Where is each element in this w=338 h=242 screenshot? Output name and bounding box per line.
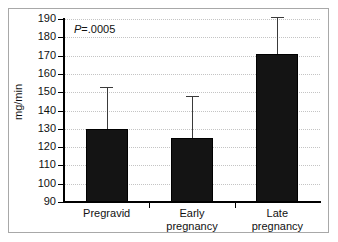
bar-early-pregnancy [171,138,213,202]
y-tick-label-90: 90 [16,196,56,207]
error-bar-cap-1 [100,87,113,88]
gridline-190 [64,19,320,20]
y-tick-160 [58,74,64,75]
p-value-text: =.0005 [81,23,115,35]
p-value-annotation: P=.0005 [74,23,115,35]
bar-late-pregnancy [256,54,298,202]
y-tick-120 [58,147,64,148]
y-tick-180 [58,37,64,38]
x-axis-label-3-line-1: Late [227,207,327,220]
y-tick-110 [58,165,64,166]
error-bar-stem-2 [192,96,193,138]
y-tick-140 [58,111,64,112]
y-axis-title: mg/min [12,72,24,132]
error-bar-stem-3 [277,17,278,54]
figure-container: 19018017016015014013012011010090 Pregrav… [0,0,338,242]
y-tick-130 [58,129,64,130]
y-tick-190 [58,19,64,20]
bar-pregravid [86,129,128,202]
y-tick-label-170: 170 [16,50,56,61]
y-tick-100 [58,184,64,185]
y-tick-label-180: 180 [16,31,56,42]
y-tick-label-100: 100 [16,178,56,189]
y-tick-90 [58,202,64,203]
x-axis-line [63,201,321,203]
y-tick-label-110: 110 [16,159,56,170]
x-axis-label-3-line-2: pregnancy [227,220,327,233]
y-tick-label-120: 120 [16,141,56,152]
error-bar-stem-1 [107,87,108,129]
error-bar-cap-3 [271,17,284,18]
plot-area [64,19,320,202]
error-bar-cap-2 [186,96,199,97]
y-tick-label-190: 190 [16,13,56,24]
gridline-180 [64,37,320,38]
y-tick-150 [58,92,64,93]
y-tick-170 [58,56,64,57]
x-axis-label-3: Latepregnancy [227,207,327,233]
